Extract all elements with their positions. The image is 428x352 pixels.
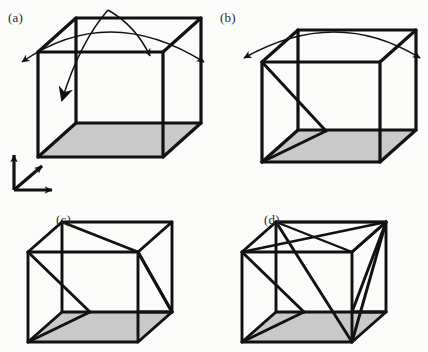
panel-d-graphic bbox=[214, 200, 428, 352]
panel-a-label: (a) bbox=[8, 10, 23, 26]
cube-bottom-face-shaded bbox=[38, 123, 201, 157]
top-face-diagonal-3 bbox=[276, 222, 352, 252]
panel-b-graphic bbox=[214, 0, 428, 200]
figure-canvas: (a) bbox=[0, 0, 428, 352]
panel-c-graphic bbox=[0, 200, 214, 352]
panel-d: (d) bbox=[214, 200, 428, 352]
cube-bottom-face-shaded bbox=[28, 312, 172, 342]
axis-depth bbox=[14, 166, 42, 190]
cube-bottom-face-shaded bbox=[262, 130, 416, 162]
top-face-diagonal bbox=[62, 222, 138, 252]
panel-c-label: (c) bbox=[56, 212, 71, 228]
panel-b-label: (b) bbox=[220, 10, 236, 26]
panel-b: (b) bbox=[214, 0, 428, 200]
rotation-arc-wide bbox=[22, 32, 204, 62]
left-face-diagonal bbox=[262, 62, 326, 131]
panel-c: (c) bbox=[0, 200, 214, 352]
panel-a: (a) bbox=[0, 0, 214, 200]
panel-a-graphic bbox=[0, 0, 214, 200]
panel-d-label: (d) bbox=[264, 212, 280, 228]
coordinate-axes bbox=[14, 155, 52, 190]
right-face-diagonal-inner bbox=[138, 252, 172, 312]
left-face-diagonal-upper bbox=[242, 252, 304, 312]
left-face-diagonal-upper bbox=[28, 252, 90, 312]
cube-bottom-face-shaded bbox=[242, 312, 386, 342]
